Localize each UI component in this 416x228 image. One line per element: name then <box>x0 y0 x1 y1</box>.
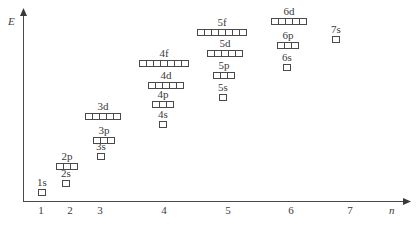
orbital-label: 3d <box>98 101 109 112</box>
orbital-label: 5d <box>220 38 231 49</box>
orbital-label: 5f <box>217 17 226 28</box>
x-axis-label: n <box>389 204 395 216</box>
x-tick-label: 6 <box>288 204 294 216</box>
orbital-3p <box>93 137 115 144</box>
orbital-label: 6d <box>284 6 295 17</box>
orbital-4d <box>148 82 184 89</box>
orbital-4f <box>139 60 189 67</box>
orbital-5s <box>219 94 227 101</box>
orbital-3d <box>85 113 121 120</box>
orbital-1s <box>38 189 46 196</box>
orbital-label: 4d <box>161 70 172 81</box>
orbital-label: 5p <box>219 60 230 71</box>
orbital-box <box>113 113 121 120</box>
y-axis-arrow-icon <box>19 8 28 17</box>
orbital-box <box>38 189 46 196</box>
orbital-box <box>107 137 115 144</box>
orbital-4p <box>152 101 174 108</box>
orbital-box <box>291 42 299 49</box>
orbital-label: 4p <box>158 89 169 100</box>
orbital-label: 3p <box>99 125 110 136</box>
x-tick-label: 4 <box>161 204 167 216</box>
orbital-box <box>70 163 78 170</box>
orbital-5f <box>197 29 247 36</box>
orbital-label: 6s <box>282 52 292 63</box>
orbital-7s <box>332 36 340 43</box>
orbital-box <box>219 94 227 101</box>
orbital-label: 7s <box>331 24 341 35</box>
orbital-box <box>332 36 340 43</box>
orbital-6d <box>271 18 307 25</box>
x-tick-label: 3 <box>97 204 103 216</box>
x-tick-label: 5 <box>225 204 231 216</box>
orbital-box <box>97 153 105 160</box>
orbital-label: 2p <box>62 151 73 162</box>
orbital-box <box>283 64 291 71</box>
x-tick-label: 7 <box>347 204 353 216</box>
x-axis-arrow-icon <box>403 197 412 206</box>
orbital-5d <box>207 50 243 57</box>
orbital-box <box>227 72 235 79</box>
y-axis <box>23 12 24 202</box>
orbital-6p <box>277 42 299 49</box>
orbital-4s <box>159 121 167 128</box>
orbital-box <box>239 29 247 36</box>
energy-level-diagram: E n 1234567 1s2s2p3s3p3d4s4p4d4f5s5p5d5f… <box>0 0 416 228</box>
orbital-box <box>181 60 189 67</box>
orbital-5p <box>213 72 235 79</box>
x-tick-label: 2 <box>67 204 73 216</box>
orbital-box <box>166 101 174 108</box>
orbital-label: 6p <box>283 30 294 41</box>
orbital-2s <box>62 180 70 187</box>
orbital-2p <box>56 163 78 170</box>
orbital-3s <box>97 153 105 160</box>
y-axis-label: E <box>8 15 15 27</box>
orbital-6s <box>283 64 291 71</box>
orbital-label: 4f <box>159 48 168 59</box>
orbital-label: 5s <box>218 82 228 93</box>
orbital-label: 4s <box>158 109 168 120</box>
x-tick-label: 1 <box>38 204 44 216</box>
orbital-label: 1s <box>37 177 47 188</box>
orbital-box <box>176 82 184 89</box>
orbital-box <box>299 18 307 25</box>
orbital-box <box>235 50 243 57</box>
orbital-box <box>62 180 70 187</box>
orbital-box <box>159 121 167 128</box>
x-axis <box>23 201 405 202</box>
